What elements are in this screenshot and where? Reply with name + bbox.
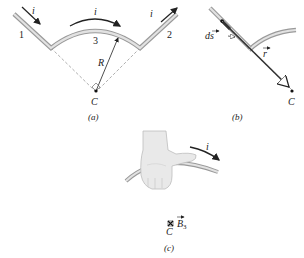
caption-b: (b) [232,112,243,122]
segment-1-label: 1 [19,29,24,40]
current-label-c: i [206,141,209,152]
current-arrow-arc [70,19,120,26]
dashed-line-right [97,48,140,91]
center-label-b: C [288,96,295,107]
center-point-a [94,89,97,92]
wire-b-arc [249,30,296,50]
segment-3-label: 3 [93,35,98,46]
caption-c: (c) [164,243,174,253]
panel-b: ds r C (b) [205,8,296,122]
panel-a: i i i 1 3 2 R C (a) [14,5,177,122]
segment-2-label: 2 [167,29,172,40]
ds-arrow [228,36,235,37]
r-label: r [263,48,267,59]
radius-label: R [97,57,104,68]
center-label-c: C [166,226,173,237]
hand-icon [141,131,196,189]
panel-c: i B3 C (c) [126,131,219,253]
dashed-line-left [51,48,95,91]
field-label: B3 [177,218,187,231]
caption-a: (a) [88,112,99,122]
center-point-b [290,89,293,92]
current-label-arc: i [94,6,97,17]
current-label-right: i [150,8,153,19]
diagram-canvas: i i i 1 3 2 R C (a) ds r C (b) [0,0,304,258]
current-label-left: i [32,5,35,16]
ds-label: ds [205,30,214,41]
center-label-a: C [91,96,98,107]
